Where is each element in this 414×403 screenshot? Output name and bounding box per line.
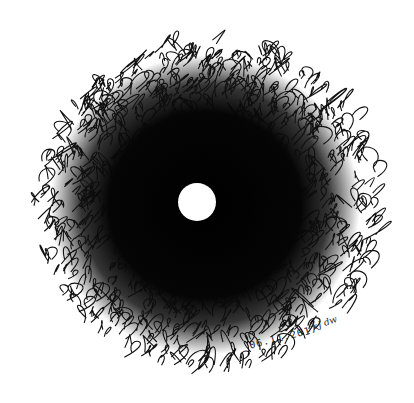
center-white-dot: [178, 183, 216, 221]
scribble-drawing: [0, 0, 414, 403]
